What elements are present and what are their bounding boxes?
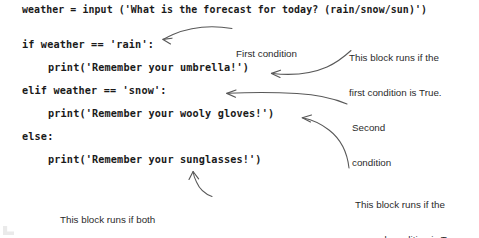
annotation-first-block-line1: This block runs if the: [349, 52, 442, 64]
code-line-print-gloves: print('Remember your wooly gloves!'): [48, 108, 274, 120]
arrow-second-condition: [227, 90, 347, 104]
annotation-first-condition: First condition: [236, 25, 297, 83]
annotation-second-block-line2: second condition is True.: [355, 234, 463, 238]
annotation-first-condition-text: First condition: [236, 48, 297, 60]
annotation-second-block: This block runs if the second condition …: [355, 176, 463, 238]
annotation-else-block-line1: This block runs if both: [60, 214, 168, 226]
annotation-second-block-line1: This block runs if the: [355, 199, 463, 211]
code-line-input: weather = input ('What is the forecast f…: [22, 4, 427, 16]
annotation-first-block-line2: first condition is True.: [349, 87, 442, 99]
annotation-second-condition-line2: condition: [352, 157, 391, 169]
arrow-else-block: [189, 172, 212, 197]
annotation-second-condition-line1: Second: [352, 122, 391, 134]
code-line-if: if weather == 'rain':: [22, 39, 154, 51]
annotation-else-block: This block runs if both conditions are F…: [60, 191, 168, 238]
code-line-else: else:: [22, 131, 53, 143]
code-line-print-sunglasses: print('Remember your sunglasses!'): [48, 154, 262, 166]
code-line-print-umbrella: print('Remember your umbrella!'): [48, 62, 249, 74]
arrow-second-block: [302, 115, 349, 168]
annotated-code-figure: weather = input ('What is the forecast f…: [0, 0, 479, 238]
scan-artifact: [3, 226, 14, 235]
arrow-first-condition: [163, 27, 232, 44]
code-line-elif: elif weather == 'snow':: [22, 85, 167, 97]
